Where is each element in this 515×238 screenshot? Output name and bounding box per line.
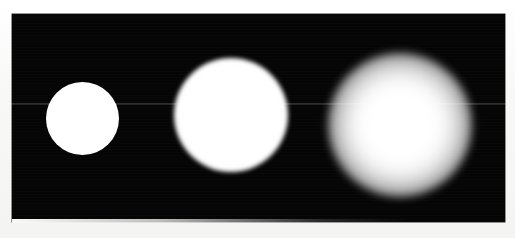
figure-root (0, 0, 515, 238)
light-spot-medium (174, 58, 288, 172)
light-spot-large (328, 53, 472, 197)
black-image-panel (12, 14, 505, 222)
light-spot-small (46, 82, 119, 155)
